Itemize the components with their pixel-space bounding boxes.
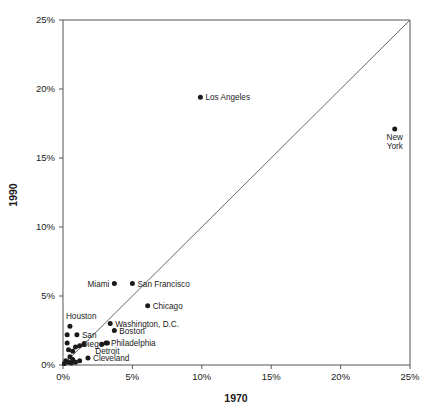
plot-canvas: 0%5%10%15%20%25% 0%5%10%15%20%25% NewYor…: [0, 0, 433, 415]
data-point: [67, 324, 72, 329]
y-tick-label: 25%: [36, 14, 56, 25]
y-tick-label: 10%: [36, 221, 56, 232]
data-point: [70, 349, 75, 354]
data-point: [112, 281, 117, 286]
x-tick-label: 20%: [331, 371, 351, 382]
data-point-label: York: [387, 142, 404, 151]
data-point: [65, 332, 70, 337]
y-tick-label: 15%: [36, 152, 56, 163]
data-point-label: Miami: [88, 280, 110, 289]
data-point: [65, 340, 70, 345]
data-point: [392, 127, 397, 132]
x-tick-label: 0%: [56, 371, 70, 382]
data-point: [112, 328, 117, 333]
y-tick-label: 20%: [36, 83, 56, 94]
data-point-label: New: [387, 133, 403, 142]
x-axis-title: 1970: [224, 392, 248, 404]
data-point: [74, 332, 79, 337]
data-point: [130, 281, 135, 286]
data-point: [85, 356, 90, 361]
data-point-label: Chicago: [153, 302, 183, 311]
y-tick-label: 5%: [41, 290, 55, 301]
x-tick-label: 5%: [126, 371, 140, 382]
data-point: [77, 358, 82, 363]
data-point-label: Boston: [119, 327, 145, 336]
data-point-label: San: [82, 331, 97, 340]
data-point: [145, 303, 150, 308]
x-tick-label: 25%: [400, 371, 420, 382]
x-tick-label: 15%: [262, 371, 282, 382]
data-point-label: Diego: [82, 340, 104, 349]
data-point: [105, 340, 110, 345]
data-point-label: San Francisco: [137, 280, 190, 289]
scatter-chart-figure: 0%5%10%15%20%25% 0%5%10%15%20%25% NewYor…: [0, 0, 433, 415]
y-tick-label: 0%: [41, 359, 55, 370]
x-tick-label: 10%: [192, 371, 212, 382]
data-point-label: Houston: [66, 312, 97, 321]
data-point: [198, 95, 203, 100]
data-point: [108, 321, 113, 326]
data-point-label: Los Angeles: [205, 93, 250, 102]
y-axis-title: 1990: [7, 183, 19, 207]
data-point: [69, 360, 74, 365]
data-point-label: Cleveland: [93, 354, 130, 363]
data-point: [62, 361, 67, 366]
